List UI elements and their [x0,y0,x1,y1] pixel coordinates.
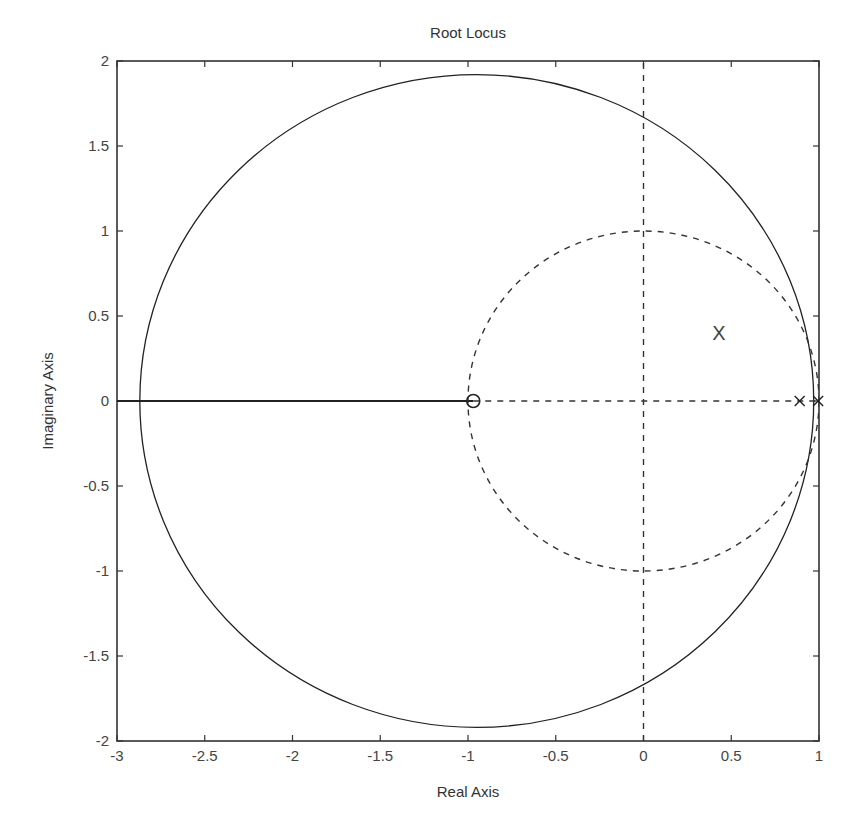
y-tick-label: -1 [96,562,109,579]
x-tick-label: -3 [110,747,123,764]
x-tick-label: -0.5 [543,747,569,764]
x-tick-label: -2.5 [192,747,218,764]
y-tick-label: 1.5 [88,137,109,154]
x-tick-label: -2 [286,747,299,764]
root-locus-chart: Root Locus -3-2.5-2-1.5-1-0.500.51 21.51… [0,0,850,829]
y-tick-label: 2 [101,52,109,69]
x-tick-label: 0.5 [721,747,742,764]
y-tick-label: 1 [101,222,109,239]
annotations: X [712,322,725,344]
y-tick-label: 0 [101,392,109,409]
y-tick-label: -0.5 [83,477,109,494]
y-tick-label: 0.5 [88,307,109,324]
y-tick-label: -1.5 [83,647,109,664]
x-tick-label: -1.5 [367,747,393,764]
annotation-label: X [712,322,725,344]
y-tick-label: -2 [96,732,109,749]
x-tick-label: 1 [815,747,823,764]
x-tick-labels: -3-2.5-2-1.5-1-0.500.51 [110,747,823,764]
x-axis-label: Real Axis [437,783,500,800]
y-tick-labels: 21.510.50-0.5-1-1.5-2 [83,52,109,749]
x-tick-label: -1 [461,747,474,764]
x-tick-label: 0 [639,747,647,764]
chart-title: Root Locus [430,24,506,41]
y-axis-label: Imaginary Axis [39,352,56,450]
